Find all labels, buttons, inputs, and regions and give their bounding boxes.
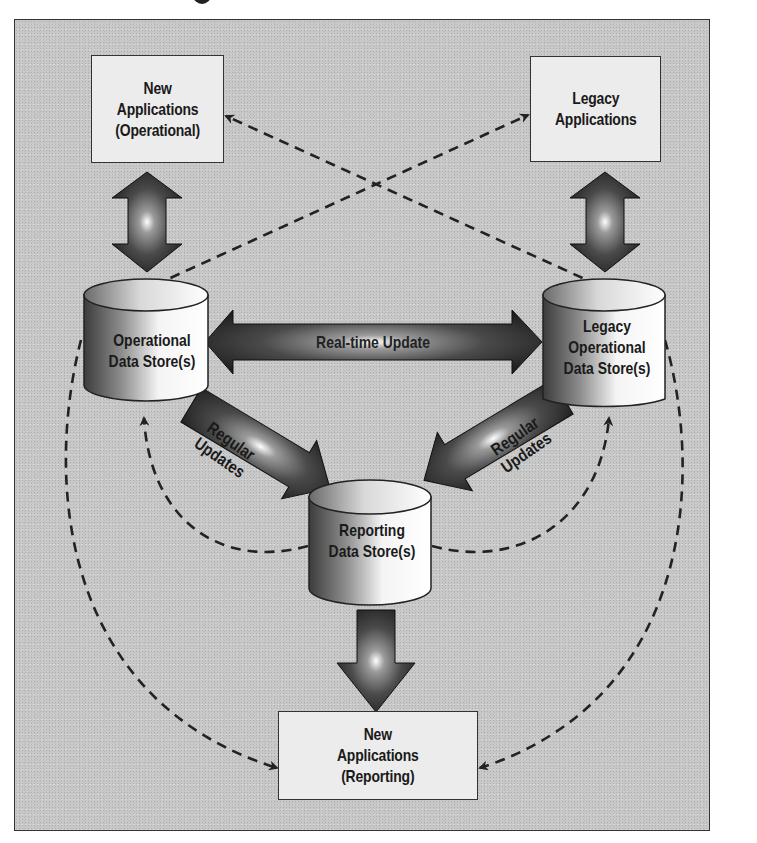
realtime-label: Real-time Update bbox=[299, 333, 447, 353]
node-label: New Applications (Operational) bbox=[115, 78, 200, 141]
operational-ds-label: Operational Data Store(s) bbox=[103, 330, 201, 372]
node-new-apps-reporting: New Applications (Reporting) bbox=[278, 711, 478, 800]
node-label: New Applications (Reporting) bbox=[337, 724, 419, 787]
arrow-newops-opds bbox=[112, 172, 182, 272]
node-new-apps-operational: New Applications (Operational) bbox=[91, 55, 224, 163]
node-label: Legacy Applications bbox=[555, 88, 637, 130]
arrow-legacyapps-legacyds bbox=[570, 172, 640, 272]
legacy-operational-ds-label: Legacy Operational Data Store(s) bbox=[556, 316, 658, 379]
reporting-ds-label: Reporting Data Store(s) bbox=[323, 520, 421, 562]
node-legacy-apps: Legacy Applications bbox=[530, 56, 661, 162]
dashed-curve-opds-to-newrep bbox=[66, 340, 277, 768]
arrow-reporting-out bbox=[337, 610, 415, 712]
